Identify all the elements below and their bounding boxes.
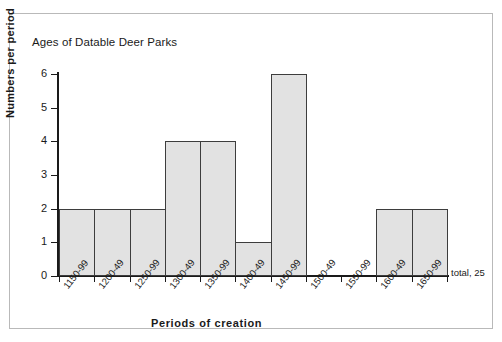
histogram-bar — [165, 141, 201, 276]
x-axis-tick — [412, 276, 413, 282]
x-axis-title: Periods of creation — [151, 317, 262, 329]
y-axis-tick-label: 4 — [41, 134, 47, 146]
y-axis-tick-label: 2 — [41, 202, 47, 214]
y-axis-tick-label: 1 — [41, 235, 47, 247]
x-axis-tick — [59, 276, 60, 282]
plot-area — [59, 74, 447, 276]
y-axis-tick-label: 6 — [41, 67, 47, 79]
x-axis-tick — [165, 276, 166, 282]
chart-title: Ages of Datable Deer Parks — [32, 36, 177, 48]
x-axis-tick — [306, 276, 307, 282]
y-axis-tick: 0 — [51, 276, 58, 277]
x-axis-tick — [341, 276, 342, 282]
histogram-bar — [271, 74, 307, 276]
y-axis-tick: 4 — [51, 141, 58, 142]
x-axis-tick — [447, 276, 448, 282]
x-axis-tick — [200, 276, 201, 282]
y-axis-tick: 1 — [51, 242, 58, 243]
x-axis-tick — [376, 276, 377, 282]
y-axis-tick-label: 0 — [41, 269, 47, 281]
y-axis-tick: 5 — [51, 108, 58, 109]
y-axis-tick: 3 — [51, 175, 58, 176]
x-axis-tick — [271, 276, 272, 282]
y-axis-tick: 6 — [51, 74, 58, 75]
x-axis-tick — [235, 276, 236, 282]
total-annotation: total, 25 — [451, 267, 485, 278]
y-axis-tick-label: 3 — [41, 168, 47, 180]
histogram-bar — [200, 141, 236, 276]
y-axis-tick: 2 — [51, 209, 58, 210]
figure-frame: Ages of Datable Deer Parks Numbers per p… — [9, 13, 493, 329]
x-axis-tick — [130, 276, 131, 282]
y-axis-tick-label: 5 — [41, 101, 47, 113]
chart-page: Ages of Datable Deer Parks Numbers per p… — [0, 0, 502, 342]
y-axis-title: Numbers per period — [4, 8, 16, 118]
x-axis-tick — [94, 276, 95, 282]
